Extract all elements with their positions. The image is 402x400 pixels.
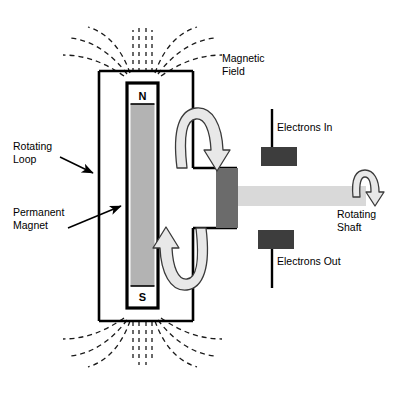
rotating-loop-label: Rotating Loop	[13, 140, 52, 166]
permanent-magnet-bar: N S	[127, 83, 158, 308]
electrons-out-label: Electrons Out	[277, 255, 341, 268]
electrons-in-label: Electrons In	[277, 121, 332, 134]
magnetic-field-label: Magnetic Field	[222, 52, 265, 78]
magnetic-field-lines-top	[63, 27, 222, 76]
south-pole-letter: S	[139, 291, 146, 303]
north-pole-letter: N	[139, 90, 147, 102]
generator-diagram-figure: N S M	[0, 0, 402, 400]
loop-rotation-arrow-top	[176, 108, 230, 171]
shaft-hub	[216, 168, 238, 228]
loop-rotation-arrow-bottom	[153, 227, 207, 290]
electrons-in-brush	[261, 109, 297, 166]
rotating-shaft-label: Rotating Shaft	[337, 208, 376, 234]
magnetic-field-lines-bottom	[63, 318, 222, 367]
permanent-magnet-label: Permanent Magnet	[13, 206, 64, 232]
rotating-shaft-bar	[238, 186, 366, 206]
diagram-canvas: N S	[0, 0, 402, 400]
